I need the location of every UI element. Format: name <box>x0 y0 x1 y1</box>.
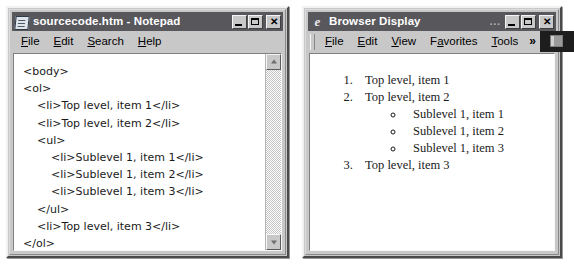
close-button[interactable]: ✕ <box>539 15 554 29</box>
menu-item-help[interactable]: Help <box>131 33 169 50</box>
menu-item-search[interactable]: Search <box>80 33 130 50</box>
browser-window[interactable]: e Browser Display ... ✕ FileEditViewFavo… <box>302 6 562 258</box>
notepad-titlebar[interactable]: sourcecode.htm - Notepad ✕ <box>12 12 283 31</box>
notepad-document-icon <box>14 15 29 29</box>
browser-titlebar[interactable]: e Browser Display ... ✕ <box>308 12 556 31</box>
notepad-menubar[interactable]: FileEditSearchHelp <box>10 31 285 52</box>
browser-menubar[interactable]: FileEditViewFavoritesTools » <box>306 31 558 52</box>
minimize-button[interactable] <box>232 15 247 29</box>
sublist-item: Sublevel 1, item 3 <box>405 140 554 157</box>
menu-item-tools[interactable]: Tools <box>484 33 525 50</box>
menu-item-file[interactable]: File <box>14 33 47 50</box>
list-item-label: Top level, item 2 <box>365 90 450 104</box>
sublist-item-label: Sublevel 1, item 2 <box>413 124 504 138</box>
maximize-button[interactable] <box>521 15 536 29</box>
notepad-vertical-scrollbar[interactable] <box>265 54 281 250</box>
browser-page-content[interactable]: Top level, item 1Top level, item 2Sublev… <box>310 54 554 250</box>
top-level-ordered-list: Top level, item 1Top level, item 2Sublev… <box>310 72 554 174</box>
sublist-item-label: Sublevel 1, item 1 <box>413 107 504 121</box>
browser-window-controls[interactable]: ✕ <box>505 15 554 29</box>
sublist-item: Sublevel 1, item 1 <box>405 106 554 123</box>
menubar-grip[interactable] <box>310 34 315 50</box>
notepad-text-area[interactable]: <body> <ol> <li>Top level, item 1</li> <… <box>14 54 265 250</box>
scroll-up-icon <box>271 60 277 64</box>
maximize-icon <box>251 18 259 25</box>
list-item: Top level, item 1 <box>356 72 554 89</box>
title-overflow-ellipsis: ... <box>490 16 501 27</box>
scroll-down-icon <box>271 240 277 244</box>
list-item-label: Top level, item 3 <box>365 158 450 172</box>
browser-client-area: Top level, item 1Top level, item 2Sublev… <box>309 53 555 251</box>
notepad-window-controls[interactable]: ✕ <box>232 15 281 29</box>
list-item: Top level, item 3 <box>356 157 554 174</box>
sublevel-unordered-list: Sublevel 1, item 1Sublevel 1, item 2Subl… <box>365 106 554 157</box>
minimize-icon <box>508 24 515 26</box>
maximize-icon <box>524 18 532 25</box>
browser-logo-button[interactable] <box>540 31 574 52</box>
menu-overflow-chevron-icon[interactable]: » <box>525 35 540 48</box>
menu-item-file[interactable]: File <box>318 33 351 50</box>
browser-logo-icon <box>550 35 563 47</box>
close-button[interactable]: ✕ <box>266 15 281 29</box>
scroll-down-button[interactable] <box>266 234 281 250</box>
browser-title: Browser Display <box>329 12 490 31</box>
scroll-up-button[interactable] <box>266 54 281 70</box>
menu-item-edit[interactable]: Edit <box>351 33 385 50</box>
maximize-button[interactable] <box>248 15 263 29</box>
menu-item-view[interactable]: View <box>384 33 423 50</box>
close-icon: ✕ <box>267 16 280 28</box>
minimize-button[interactable] <box>505 15 520 29</box>
internet-explorer-icon: e <box>310 15 325 29</box>
notepad-title: sourcecode.htm - Notepad <box>33 12 232 31</box>
list-item: Top level, item 2Sublevel 1, item 1Suble… <box>356 89 554 157</box>
sublist-item: Sublevel 1, item 2 <box>405 123 554 140</box>
menu-item-edit[interactable]: Edit <box>47 33 81 50</box>
minimize-icon <box>235 24 242 26</box>
list-item-label: Top level, item 1 <box>365 73 450 87</box>
sublist-item-label: Sublevel 1, item 3 <box>413 141 504 155</box>
notepad-client-area: <body> <ol> <li>Top level, item 1</li> <… <box>13 53 282 251</box>
notepad-window[interactable]: sourcecode.htm - Notepad ✕ FileEditSearc… <box>6 6 289 258</box>
rendered-html-output: Top level, item 1Top level, item 2Sublev… <box>310 54 554 174</box>
menu-item-favorites[interactable]: Favorites <box>423 33 484 50</box>
close-icon: ✕ <box>540 16 553 28</box>
source-code-text[interactable]: <body> <ol> <li>Top level, item 1</li> <… <box>14 54 265 250</box>
